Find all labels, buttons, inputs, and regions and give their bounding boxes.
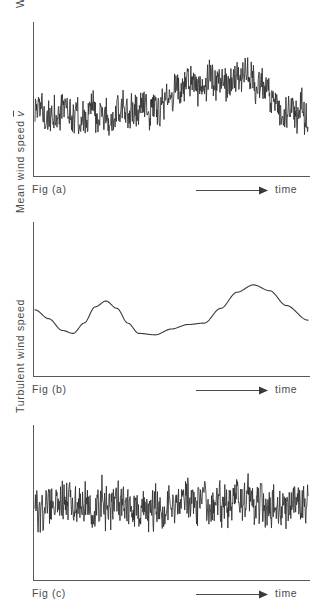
figure-panel-a: Wind speed v Fig (a) time: [0, 0, 317, 205]
figure-panel-b: Mean wind speed v Fig (b) time: [0, 205, 317, 405]
plot-a-x-axis-label: time: [275, 183, 297, 195]
plot-a-y-axis-label-text: Wind speed: [14, 0, 26, 8]
plot-b-canvas: [0, 205, 317, 405]
plot-b-caption: Fig (b): [32, 383, 67, 395]
plot-c-caption: Fig (c): [32, 587, 66, 599]
plot-a-canvas: [0, 0, 317, 205]
plot-b-y-axis-label-symbol: v: [14, 111, 26, 117]
plot-c-y-axis-label-text: Turbulent wind speed: [14, 299, 26, 413]
plot-a-time-arrow: [196, 187, 268, 195]
figure-panel-c: Turbulent wind speed Fig (c) time: [0, 405, 317, 615]
plot-b-axes: [34, 222, 311, 377]
plot-b-time-arrow: [196, 387, 268, 395]
plot-c-time-arrow: [196, 591, 268, 599]
plot-a-trace: [35, 58, 308, 136]
plot-c-canvas: [0, 405, 317, 615]
plot-c-x-axis-label: time: [275, 587, 297, 599]
figure-stack: Wind speed v Fig (a) time Mean wind spee…: [0, 0, 317, 615]
plot-b-y-axis-label-text: Mean wind speed: [14, 120, 26, 213]
plot-b-x-axis-label: time: [275, 383, 297, 395]
plot-a-caption: Fig (a): [32, 183, 67, 195]
plot-b-trace: [35, 285, 308, 335]
plot-c-trace: [35, 473, 308, 532]
